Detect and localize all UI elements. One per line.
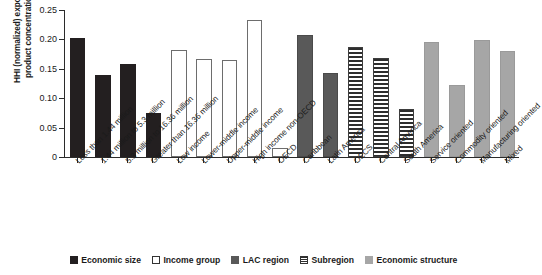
- y-tick-label: 0.15: [27, 64, 57, 74]
- bar-lac[interactable]: [297, 35, 313, 157]
- x-axis-labels: Less than 1.44 million1.44 million to 5.…: [64, 159, 527, 254]
- y-tick: [59, 98, 64, 99]
- y-tick-label: 0.10: [27, 93, 57, 103]
- legend-item-sub[interactable]: Subregion: [300, 255, 354, 265]
- y-tick: [59, 69, 64, 70]
- legend-label: LAC region: [243, 255, 289, 265]
- legend-swatch-icon: [231, 256, 239, 264]
- legend-item-struct[interactable]: Economic structure: [365, 255, 457, 265]
- y-tick: [59, 128, 64, 129]
- legend-item-lac[interactable]: LAC region: [231, 255, 289, 265]
- bar-size[interactable]: [70, 38, 86, 157]
- y-tick-label: 0.20: [27, 34, 57, 44]
- legend-swatch-icon: [300, 256, 308, 264]
- chart-legend: Economic sizeIncome groupLAC regionSubre…: [0, 255, 527, 265]
- legend-item-income[interactable]: Income group: [152, 255, 220, 265]
- legend-swatch-icon: [152, 256, 160, 264]
- bar-sub[interactable]: [373, 58, 389, 157]
- legend-label: Economic structure: [377, 255, 458, 265]
- y-tick: [59, 157, 64, 158]
- legend-label: Subregion: [312, 255, 355, 265]
- y-axis-title-line-1: HHI (normalized) exports: [12, 0, 23, 111]
- y-tick: [59, 10, 64, 11]
- y-tick-label: 0: [27, 152, 57, 162]
- legend-label: Economic size: [81, 255, 141, 265]
- y-tick-label: 0.05: [27, 123, 57, 133]
- y-tick-label: 0.25: [27, 5, 57, 15]
- legend-swatch-icon: [365, 256, 373, 264]
- legend-swatch-icon: [70, 256, 78, 264]
- legend-label: Income group: [163, 255, 220, 265]
- legend-item-size[interactable]: Economic size: [70, 255, 141, 265]
- y-tick: [59, 39, 64, 40]
